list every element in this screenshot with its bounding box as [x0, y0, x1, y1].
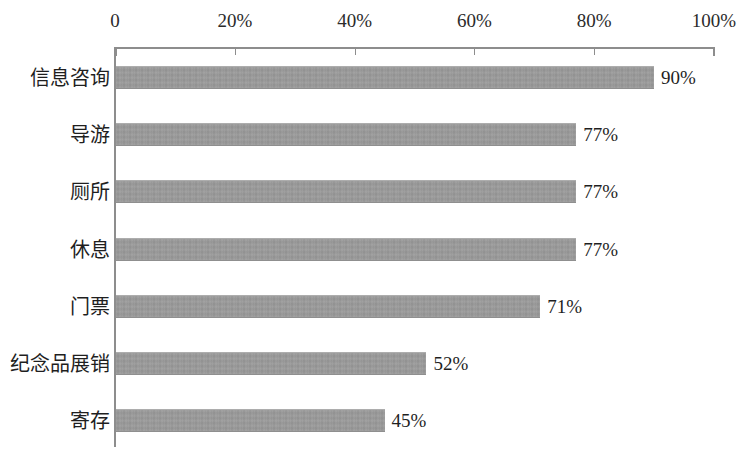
bar [116, 123, 576, 146]
bar-value-label: 52% [433, 352, 468, 376]
x-axis-tick [355, 47, 356, 55]
bar-value-label: 77% [583, 123, 618, 147]
bar [116, 295, 540, 318]
x-axis-tick-label: 60% [457, 10, 492, 32]
bar-row: 信息咨询90% [0, 66, 738, 90]
bar [116, 180, 576, 203]
bar-row: 厕所77% [0, 180, 738, 204]
category-label: 信息咨询 [30, 66, 110, 90]
x-axis-tick [474, 47, 475, 55]
x-axis-tick-label: 100% [692, 10, 736, 32]
x-axis-tick [235, 47, 236, 55]
x-axis-tick-label: 80% [577, 10, 612, 32]
bar [116, 352, 426, 375]
category-label: 门票 [70, 295, 110, 319]
bar-value-label: 77% [583, 180, 618, 204]
x-axis-tick-label: 40% [337, 10, 372, 32]
bar-row: 休息77% [0, 238, 738, 262]
bar-row: 门票71% [0, 295, 738, 319]
bar-value-label: 71% [547, 295, 582, 319]
bar-value-label: 45% [392, 409, 427, 433]
category-label: 寄存 [70, 409, 110, 433]
x-axis-line [115, 47, 714, 49]
x-axis-tick [115, 47, 117, 56]
x-axis-tick [594, 47, 595, 55]
bar [116, 238, 576, 261]
category-label: 纪念品展销 [10, 352, 110, 376]
bar-row: 导游77% [0, 123, 738, 147]
x-axis-tick-label: 0 [110, 10, 120, 32]
x-axis-tick-label: 20% [217, 10, 252, 32]
bar-row: 寄存45% [0, 409, 738, 433]
x-axis-tick [713, 47, 715, 56]
bar-value-label: 77% [583, 238, 618, 262]
bar-row: 纪念品展销52% [0, 352, 738, 376]
category-label: 厕所 [70, 180, 110, 204]
bar [116, 409, 385, 432]
bar-chart: 020%40%60%80%100% 信息咨询90%导游77%厕所77%休息77%… [0, 0, 738, 449]
category-label: 导游 [70, 123, 110, 147]
category-label: 休息 [70, 238, 110, 262]
bar-value-label: 90% [661, 66, 696, 90]
bar [116, 66, 654, 89]
